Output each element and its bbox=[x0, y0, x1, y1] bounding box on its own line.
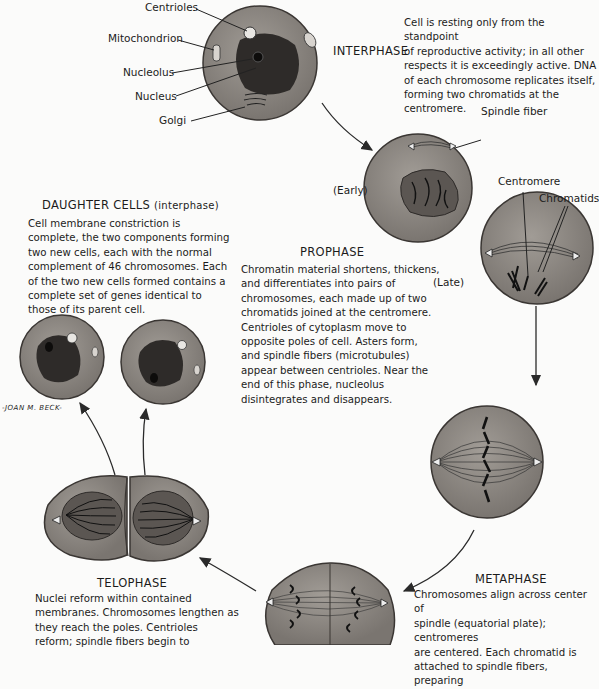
telophase-title: TELOPHASE bbox=[97, 576, 167, 590]
label-centrioles: Centrioles bbox=[145, 1, 198, 13]
anaphase-cell bbox=[266, 563, 395, 645]
metaphase-title: METAPHASE bbox=[475, 572, 547, 586]
metaphase-cell bbox=[431, 406, 543, 518]
daughter-cell-right bbox=[121, 320, 205, 404]
prophase-title: PROPHASE bbox=[300, 245, 364, 259]
label-chromatids: Chromatids bbox=[539, 192, 599, 204]
daughter-cell-left bbox=[20, 315, 104, 399]
metaphase-description: Chromosomes align across center of spind… bbox=[414, 588, 599, 689]
label-mitochondrion: Mitochondrion bbox=[108, 32, 183, 44]
label-spindle-fiber: Spindle fiber bbox=[481, 105, 547, 117]
artist-signature: -JOAN M. BECK- bbox=[2, 404, 62, 412]
telophase-description: Nuclei reform within contained membranes… bbox=[35, 592, 255, 650]
daughter-cells-description: Cell membrane constriction is complete, … bbox=[28, 217, 238, 318]
label-nucleolus: Nucleolus bbox=[123, 66, 174, 78]
label-nucleus: Nucleus bbox=[135, 90, 177, 102]
interphase-title: INTERPHASE bbox=[333, 44, 408, 58]
prophase-early-cell bbox=[364, 134, 472, 242]
label-golgi: Golgi bbox=[159, 114, 186, 126]
prophase-late-cell bbox=[481, 192, 593, 304]
interphase-description: Cell is resting only from the standpoint… bbox=[404, 16, 599, 117]
label-centromere: Centromere bbox=[498, 175, 560, 187]
prophase-description: Chromatin material shortens, thickens, a… bbox=[241, 263, 441, 407]
telophase-cell bbox=[44, 476, 208, 561]
interphase-cell bbox=[203, 6, 318, 120]
label-prophase-early: (Early) bbox=[333, 184, 368, 196]
daughter-cells-title: DAUGHTER CELLS (interphase) bbox=[42, 198, 219, 212]
